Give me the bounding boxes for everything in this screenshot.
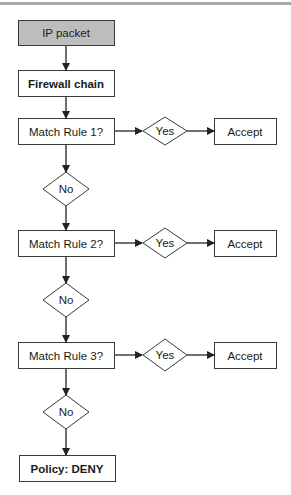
rule-2-no-label: No bbox=[59, 294, 74, 306]
flowchart: IP packet Firewall chain Match Rule 1? Y… bbox=[0, 0, 291, 495]
rule-3-label: Match Rule 3? bbox=[29, 350, 103, 362]
rule-1-accept-label: Accept bbox=[227, 126, 263, 138]
rule-1-label: Match Rule 1? bbox=[29, 126, 103, 138]
rule-1-no-label: No bbox=[59, 183, 74, 195]
rule-3-no-label: No bbox=[59, 406, 74, 418]
chain-label: Firewall chain bbox=[28, 78, 104, 90]
start-label: IP packet bbox=[42, 27, 91, 39]
rule-2-yes-label: Yes bbox=[156, 237, 175, 249]
rule-2-label: Match Rule 2? bbox=[29, 238, 103, 250]
rule-1-yes-label: Yes bbox=[156, 125, 175, 137]
rule-2-accept-label: Accept bbox=[227, 238, 263, 250]
end-label: Policy: DENY bbox=[31, 463, 104, 475]
rule-3-yes-label: Yes bbox=[156, 349, 175, 361]
rule-3-accept-label: Accept bbox=[227, 350, 263, 362]
